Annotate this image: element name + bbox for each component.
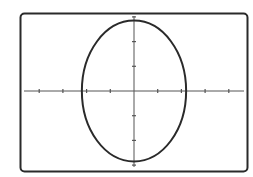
calculator-screen xyxy=(0,0,253,177)
